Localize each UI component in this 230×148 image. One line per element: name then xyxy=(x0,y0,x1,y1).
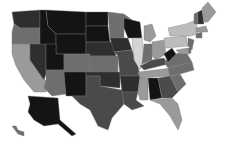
state-wi xyxy=(124,18,142,38)
state-vt xyxy=(194,12,198,24)
state-ne xyxy=(86,42,116,56)
state-ny xyxy=(168,20,198,36)
state-ar xyxy=(120,76,140,92)
state-sd xyxy=(86,26,110,42)
state-ks xyxy=(90,56,118,72)
state-az xyxy=(44,70,66,96)
state-ak xyxy=(28,96,76,136)
state-fl xyxy=(150,98,182,130)
state-nm xyxy=(64,72,86,96)
state-co xyxy=(64,54,90,72)
state-ia xyxy=(110,38,132,52)
state-mi xyxy=(144,24,156,42)
state-pa xyxy=(164,36,188,48)
state-oh xyxy=(152,40,166,60)
us-choropleth-map xyxy=(0,0,230,148)
state-md xyxy=(176,48,190,54)
state-wy xyxy=(56,34,86,54)
state-me xyxy=(202,2,216,22)
state-hi xyxy=(12,126,24,136)
state-ms xyxy=(138,78,148,100)
state-nd xyxy=(86,12,108,26)
state-ma xyxy=(196,26,208,32)
